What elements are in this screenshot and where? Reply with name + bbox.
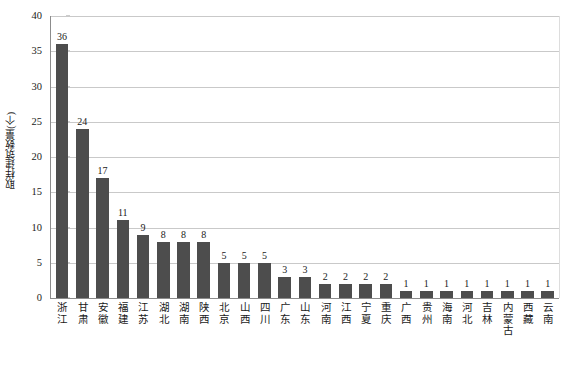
bar-value-label: 2 [363, 272, 368, 282]
bar-slot: 9 [133, 16, 153, 298]
bar-slot: 1 [517, 16, 537, 298]
x-axis-tick-label: 贵州 [419, 302, 431, 325]
x-axis-label-slot: 宁夏 [355, 302, 375, 364]
x-axis-label-slot: 安徽 [91, 302, 111, 364]
y-axis-tick-label: 15 [32, 187, 43, 198]
y-axis-tick-label: 20 [32, 152, 43, 163]
x-axis-label-slot: 内蒙古 [496, 302, 516, 364]
x-axis-label-slot: 四川 [253, 302, 273, 364]
bar-value-label: 2 [383, 272, 388, 282]
bar-value-label: 24 [77, 117, 87, 127]
bar[interactable] [521, 291, 534, 298]
bar-slot: 5 [234, 16, 254, 298]
bar-value-label: 1 [444, 279, 449, 289]
y-axis-tick-label: 25 [32, 117, 43, 128]
x-axis-tick-label: 福建 [116, 302, 128, 325]
x-axis-tick-label: 北京 [217, 302, 229, 325]
bar[interactable] [420, 291, 433, 298]
x-axis-tick-label: 浙江 [55, 302, 67, 325]
bar[interactable] [380, 284, 393, 298]
x-axis-tick-label: 云南 [541, 302, 553, 325]
bar[interactable] [56, 44, 69, 298]
bar-chart: 取样建筑数量(个) 0510152025303540 3624171198885… [0, 0, 563, 366]
bar[interactable] [501, 291, 514, 298]
x-axis-label-slot: 江苏 [132, 302, 152, 364]
x-axis-label-slot: 河北 [456, 302, 476, 364]
bar[interactable] [76, 129, 89, 298]
bar-value-label: 1 [505, 279, 510, 289]
x-axis-tick-label: 山东 [298, 302, 310, 325]
bar[interactable] [461, 291, 474, 298]
x-axis-label-slot: 河南 [314, 302, 334, 364]
x-axis-label-slot: 湖南 [172, 302, 192, 364]
y-axis-tick-labels: 0510152025303540 [20, 0, 46, 300]
bar[interactable] [96, 178, 109, 298]
y-axis-title-text: 取样建筑数量(个) [6, 112, 16, 189]
bar-value-label: 5 [242, 251, 247, 261]
y-axis-tick-label: 5 [37, 258, 42, 269]
bar[interactable] [440, 291, 453, 298]
x-axis-label-slot: 广东 [274, 302, 294, 364]
x-axis-tick-label: 海南 [440, 302, 452, 325]
bar-slot: 1 [538, 16, 558, 298]
x-axis-tick-label: 广西 [399, 302, 411, 325]
bar-value-label: 11 [118, 208, 128, 218]
x-axis-tick-label: 湖南 [177, 302, 189, 325]
bar-slot: 5 [254, 16, 274, 298]
bar[interactable] [218, 263, 231, 298]
y-axis-tick-label: 10 [32, 222, 43, 233]
bar-value-label: 5 [262, 251, 267, 261]
x-axis-tick-label: 湖北 [156, 302, 168, 325]
bar[interactable] [258, 263, 271, 298]
bar-value-label: 8 [161, 230, 166, 240]
bar-slot: 8 [194, 16, 214, 298]
x-axis-label-slot: 甘肃 [71, 302, 91, 364]
x-axis-label-slot: 广西 [395, 302, 415, 364]
bar-value-label: 2 [343, 272, 348, 282]
bar-slot: 3 [295, 16, 315, 298]
bar-slot: 1 [396, 16, 416, 298]
bar[interactable] [400, 291, 413, 298]
bar[interactable] [278, 277, 291, 298]
x-axis-label-slot: 吉林 [476, 302, 496, 364]
x-axis-label-slot: 重庆 [375, 302, 395, 364]
bar[interactable] [117, 220, 130, 298]
y-axis-tick-label: 35 [32, 46, 43, 57]
bar-slot: 17 [92, 16, 112, 298]
bar[interactable] [177, 242, 190, 298]
x-axis-label-slot: 湖北 [152, 302, 172, 364]
x-axis-tick-label: 吉林 [480, 302, 492, 325]
bar-slot: 3 [275, 16, 295, 298]
bar-slot: 36 [52, 16, 72, 298]
bar[interactable] [299, 277, 312, 298]
bar-slot: 2 [315, 16, 335, 298]
bar-slot: 1 [497, 16, 517, 298]
bar-value-label: 3 [302, 265, 307, 275]
bar-slot: 24 [72, 16, 92, 298]
x-axis-label-slot: 海南 [435, 302, 455, 364]
x-axis-label-slot: 云南 [537, 302, 557, 364]
bar-slot: 1 [436, 16, 456, 298]
bar[interactable] [157, 242, 170, 298]
bar-series: 36241711988855533222211111111 [51, 16, 559, 298]
bar-value-label: 1 [424, 279, 429, 289]
y-axis-tick-label: 30 [32, 81, 43, 92]
x-axis-tick-label: 安徽 [96, 302, 108, 325]
bar[interactable] [359, 284, 372, 298]
bar[interactable] [319, 284, 332, 298]
bar[interactable] [481, 291, 494, 298]
bar-slot: 1 [457, 16, 477, 298]
bar[interactable] [541, 291, 554, 298]
bar-value-label: 1 [404, 279, 409, 289]
bar[interactable] [197, 242, 210, 298]
x-axis-tick-label: 河北 [460, 302, 472, 325]
y-axis-tick-label: 0 [37, 293, 42, 304]
bar[interactable] [339, 284, 352, 298]
bar-slot: 1 [416, 16, 436, 298]
bar[interactable] [238, 263, 251, 298]
bar-slot: 11 [113, 16, 133, 298]
bar[interactable] [137, 235, 150, 298]
x-axis-label-slot: 江西 [334, 302, 354, 364]
bar-value-label: 36 [57, 32, 67, 42]
bar-slot: 2 [335, 16, 355, 298]
